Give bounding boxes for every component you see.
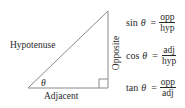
sin-formula: sin θ = opp hyp [126, 12, 175, 33]
numerator: opp [160, 77, 176, 88]
theta-angle-label: θ [41, 78, 46, 88]
right-angle-marker [99, 79, 108, 88]
fraction: opp adj [160, 77, 176, 98]
numerator: opp [159, 12, 175, 23]
tan-formula: tan θ = opp adj [126, 77, 176, 98]
function-name: sin [126, 17, 138, 28]
fraction: adj hyp [161, 45, 177, 66]
theta-symbol: θ [141, 17, 146, 28]
equals-sign: = [152, 50, 158, 61]
adjacent-label: Adjacent [44, 91, 78, 101]
theta-symbol: θ [142, 50, 147, 61]
denominator: adj [161, 88, 175, 98]
denominator: hyp [159, 23, 175, 33]
opposite-label: Opposite [111, 31, 121, 75]
function-name: tan [126, 82, 138, 93]
equals-sign: = [151, 17, 157, 28]
theta-symbol: θ [141, 82, 146, 93]
cos-formula: cos θ = adj hyp [126, 45, 177, 66]
denominator: hyp [161, 56, 177, 66]
equals-sign: = [151, 82, 157, 93]
fraction: opp hyp [159, 12, 175, 33]
hypotenuse-label: Hypotenuse [10, 40, 55, 50]
numerator: adj [162, 45, 176, 56]
function-name: cos [126, 50, 139, 61]
